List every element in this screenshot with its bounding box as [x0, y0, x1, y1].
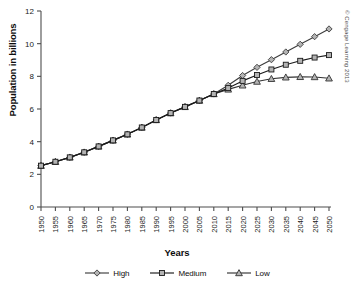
y-tick-label: 6: [30, 105, 35, 114]
x-tick-label: 1965: [80, 216, 89, 233]
legend-label: Low: [255, 269, 269, 278]
data-point-marker: [154, 117, 159, 122]
data-point-marker: [183, 104, 188, 109]
axis-ticks: [37, 11, 329, 211]
legend-label: High: [113, 269, 129, 278]
x-tick-label: 1980: [123, 216, 132, 233]
x-tick-label: 2025: [253, 216, 262, 233]
data-point-marker: [111, 138, 116, 143]
data-point-marker: [240, 78, 245, 83]
data-point-marker: [298, 58, 303, 63]
x-tick-label: 1960: [66, 216, 75, 233]
x-tick-label: 1990: [152, 216, 161, 233]
series-high: [38, 26, 332, 169]
x-tick-label: 2005: [195, 216, 204, 233]
data-point-marker: [139, 125, 144, 130]
y-tick-label: 10: [25, 40, 34, 49]
copyright-credit-text: © Cengage Learning 2013: [344, 10, 350, 83]
x-tick-label: 1985: [138, 216, 147, 233]
y-tick-label: 12: [25, 7, 34, 16]
legend-label: Medium: [178, 269, 206, 278]
data-point-marker: [268, 57, 274, 63]
x-tick-label: 1950: [37, 216, 46, 233]
y-tick-label: 4: [30, 138, 35, 147]
legend-square-icon: [149, 267, 175, 279]
data-point-marker: [239, 72, 245, 78]
y-tick-label: 0: [30, 203, 35, 212]
x-tick-label: 1975: [109, 216, 118, 233]
data-point-marker: [67, 155, 72, 160]
data-point-marker: [254, 64, 260, 70]
data-point-marker: [326, 26, 332, 32]
legend-triangle-icon: [226, 267, 252, 279]
x-axis-title-text: Years: [165, 247, 190, 258]
x-tick-label: 2040: [296, 216, 305, 233]
data-point-marker: [327, 53, 332, 58]
data-point-marker: [96, 144, 101, 149]
data-point-marker: [255, 73, 260, 78]
data-point-marker: [283, 62, 288, 67]
legend-item-low[interactable]: Low: [226, 267, 269, 279]
y-tick-label: 8: [30, 72, 35, 81]
data-point-marker: [39, 163, 44, 168]
legend-item-high[interactable]: High: [84, 267, 129, 279]
x-tick-label: 2050: [325, 216, 334, 233]
x-tick-label: 2010: [210, 216, 219, 233]
data-point-marker: [312, 55, 317, 60]
data-series: [38, 26, 333, 169]
y-axis-tick-labels: 024681012: [25, 7, 34, 212]
copyright-credit: © Cengage Learning 2013: [341, 10, 353, 140]
x-tick-label: 2020: [239, 216, 248, 233]
data-point-marker: [168, 111, 173, 116]
data-point-marker: [82, 150, 87, 155]
data-point-marker: [125, 132, 130, 137]
data-point-marker: [283, 49, 289, 55]
x-tick-label: 2035: [282, 216, 291, 233]
x-tick-label: 2030: [267, 216, 276, 233]
x-tick-label: 2015: [224, 216, 233, 233]
data-point-marker: [211, 91, 216, 96]
population-projection-chart: 1950195519601965197019751980198519901995…: [0, 0, 354, 289]
data-point-marker: [197, 98, 202, 103]
data-point-marker: [269, 67, 274, 72]
x-axis-title: Years: [0, 242, 354, 260]
x-axis-tick-labels: 1950195519601965197019751980198519901995…: [37, 216, 334, 233]
data-point-marker: [226, 86, 231, 91]
x-tick-label: 1970: [95, 216, 104, 233]
x-tick-label: 2045: [311, 216, 320, 233]
chart-legend: HighMediumLow: [0, 262, 354, 284]
data-point-marker: [311, 34, 317, 40]
data-point-marker: [297, 41, 303, 47]
x-tick-label: 1995: [167, 216, 176, 233]
data-point-marker: [53, 159, 58, 164]
legend-item-medium[interactable]: Medium: [149, 267, 206, 279]
y-axis-title: Population in billions: [4, 0, 20, 145]
y-axis-title-text: Population in billions: [7, 24, 18, 117]
legend-diamond-icon: [84, 267, 110, 279]
x-tick-label: 1955: [51, 216, 60, 233]
x-tick-label: 2000: [181, 216, 190, 233]
y-tick-label: 2: [30, 170, 35, 179]
